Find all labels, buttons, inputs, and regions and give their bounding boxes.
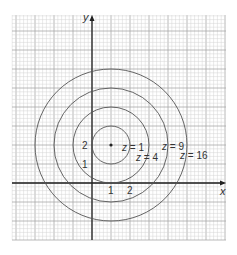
x-axis-label: x <box>219 185 226 197</box>
contour-label-z-4: z = 4 <box>135 152 158 163</box>
center-point <box>109 143 112 146</box>
y-axis-label: y <box>82 11 90 23</box>
x-tick-label-2: 2 <box>127 185 133 196</box>
contour-plot-svg: x y 1212 z = 1z = 4z = 9z = 16 <box>0 0 237 255</box>
contour-label-z-16: z = 16 <box>179 150 208 161</box>
y-tick-label-1: 1 <box>82 159 88 170</box>
y-tick-label-2: 2 <box>82 140 88 151</box>
contour-diagram: x y 1212 z = 1z = 4z = 9z = 16 <box>0 0 237 255</box>
x-tick-label-1: 1 <box>108 185 114 196</box>
